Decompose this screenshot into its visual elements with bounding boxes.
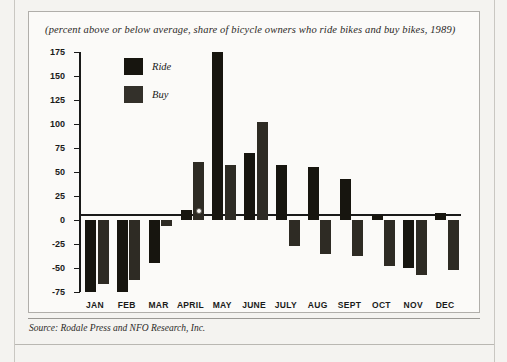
page-left-rule [14, 0, 15, 362]
y-axis-tick: 0 [74, 220, 80, 221]
bar-ride-feb [117, 220, 128, 292]
bar-ride-mar [149, 220, 160, 263]
y-axis-tick: 50 [74, 172, 80, 173]
bar-buy-feb [129, 220, 140, 280]
bar-buy-jan [98, 220, 109, 284]
x-axis-label-nov: NOV [397, 300, 429, 310]
x-axis-label-oct: OCT [366, 300, 398, 310]
legend-swatch-ride-icon [124, 58, 143, 75]
bar-buy-oct [384, 220, 395, 266]
plot-area: 1751501251007550250-25-50-75 JANFEBMARAP… [79, 52, 461, 304]
y-axis-tick: 125 [74, 100, 80, 101]
y-axis-tick: -25 [74, 244, 80, 245]
y-axis-tick-label: 175 [50, 47, 65, 57]
y-axis-tick-label: 125 [50, 95, 65, 105]
bar-group: NOV [403, 52, 435, 292]
y-axis-tick: 100 [74, 124, 80, 125]
bar-buy-aug [320, 220, 331, 254]
bar-buy-july [289, 220, 300, 246]
bar-ride-jan [85, 220, 96, 292]
bar-buy-may [225, 165, 236, 220]
y-axis-tick-label: -25 [52, 239, 65, 249]
legend-item-ride: Ride [124, 58, 171, 75]
bar-group: DEC [435, 52, 467, 292]
y-axis-tick-label: -75 [52, 287, 65, 297]
page-bottom-rule [15, 344, 494, 345]
page-right-rule [494, 0, 495, 362]
bar-ride-aug [308, 167, 319, 220]
bar-buy-nov [416, 220, 427, 275]
y-axis-tick: 25 [74, 196, 80, 197]
x-axis-label-jan: JAN [79, 300, 111, 310]
bar-group: AUG [308, 52, 340, 292]
y-axis-tick-label: 25 [55, 191, 65, 201]
bar-ride-nov [403, 220, 414, 268]
x-axis-label-july: JULY [270, 300, 302, 310]
x-axis-label-dec: DEC [429, 300, 461, 310]
bar-buy-june [257, 122, 268, 220]
bar-buy-mar [161, 220, 172, 226]
print-speck-artifact-icon [196, 208, 202, 214]
y-axis-tick: 75 [74, 148, 80, 149]
chart-frame: (percent above or below average, share o… [28, 11, 480, 313]
source-note: Source: Rodale Press and NFO Research, I… [29, 323, 205, 333]
y-axis-tick: 150 [74, 76, 80, 77]
figure-page: (percent above or below average, share o… [0, 0, 507, 362]
bar-buy-sept [352, 220, 363, 256]
bar-ride-may [212, 52, 223, 220]
bar-ride-april [181, 210, 192, 220]
y-axis-tick: -75 [74, 292, 80, 293]
bar-group: SEPT [340, 52, 372, 292]
bar-group: JULY [276, 52, 308, 292]
x-axis-label-aug: AUG [302, 300, 334, 310]
x-axis-label-sept: SEPT [334, 300, 366, 310]
y-axis-tick-label: 75 [55, 143, 65, 153]
bar-ride-sept [340, 179, 351, 220]
y-axis-tick: 175 [74, 52, 80, 53]
legend-item-buy: Buy [124, 86, 171, 103]
legend-label-buy: Buy [152, 89, 168, 100]
y-axis-tick-label: 0 [60, 215, 65, 225]
y-axis-tick: -50 [74, 268, 80, 269]
bar-group: OCT [372, 52, 404, 292]
legend-swatch-buy-icon [124, 86, 143, 103]
x-axis-label-may: MAY [206, 300, 238, 310]
bar-group: JUNE [244, 52, 276, 292]
bar-group: APRIL [181, 52, 213, 292]
y-axis-tick-label: 100 [50, 119, 65, 129]
x-axis-label-june: JUNE [238, 300, 270, 310]
bar-ride-oct [372, 215, 383, 220]
y-axis-tick-label: 50 [55, 167, 65, 177]
chart-legend: Ride Buy [124, 58, 171, 114]
bar-group: MAY [212, 52, 244, 292]
bar-group: JAN [85, 52, 117, 292]
bar-ride-dec [435, 213, 446, 220]
x-axis-label-mar: MAR [143, 300, 175, 310]
x-axis-label-feb: FEB [111, 300, 143, 310]
bar-buy-dec [448, 220, 459, 270]
x-axis-label-april: APRIL [175, 300, 207, 310]
bar-ride-july [276, 165, 287, 220]
source-divider [28, 318, 480, 319]
chart-subtitle: (percent above or below average, share o… [45, 24, 455, 35]
y-axis-tick-label: -50 [52, 263, 65, 273]
bar-ride-june [244, 153, 255, 220]
y-axis-tick-label: 150 [50, 71, 65, 81]
legend-label-ride: Ride [152, 61, 171, 72]
